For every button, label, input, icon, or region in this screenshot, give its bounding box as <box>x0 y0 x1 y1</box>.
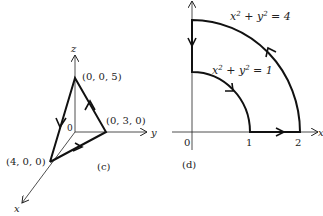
inner-curve-label: x2 + y2 = 1 <box>212 64 273 77</box>
d-x-axis-label: x <box>318 127 323 138</box>
d-origin-label: 0 <box>184 137 190 148</box>
region-boundary <box>192 20 300 132</box>
y-axis-label: y <box>150 127 157 138</box>
tick-1-label: 1 <box>246 137 252 148</box>
point-z-label: (0, 0, 5) <box>82 71 122 82</box>
tick-2-label: 2 <box>295 137 301 148</box>
x-axis <box>22 132 75 203</box>
point-y-label: (0, 3, 0) <box>106 115 146 126</box>
point-x-label: (4, 0, 0) <box>6 156 46 167</box>
origin-label: 0 <box>67 123 73 133</box>
caption-d: (d) <box>182 159 196 170</box>
z-axis-label: z <box>70 43 77 54</box>
panel-d: x2 + y2 = 4 x2 + y2 = 1 x 0 1 2 (d) <box>172 1 323 170</box>
x-axis-label: x <box>14 203 20 214</box>
panel-c: z y x 0 (0, 0, 5) (0, 3, 0) (4, 0, 0) (c… <box>6 43 157 214</box>
figure: z y x 0 (0, 0, 5) (0, 3, 0) (4, 0, 0) (c… <box>0 0 323 216</box>
outer-curve-label: x2 + y2 = 4 <box>230 10 291 23</box>
caption-c: (c) <box>97 161 111 172</box>
